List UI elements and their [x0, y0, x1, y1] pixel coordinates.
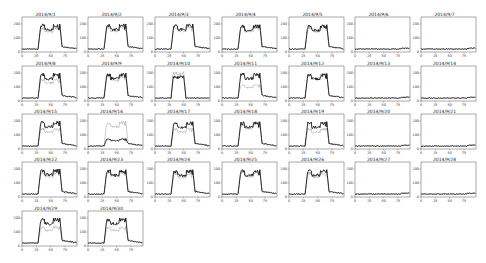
- actual-line: [22, 218, 76, 243]
- svg-text:0: 0: [221, 151, 223, 155]
- svg-text:0: 0: [154, 199, 156, 203]
- svg-text:0: 0: [417, 99, 419, 103]
- actual-line: [421, 48, 475, 50]
- svg-text:50: 50: [447, 199, 451, 203]
- svg-text:200: 200: [347, 22, 353, 26]
- svg-text:50: 50: [48, 54, 52, 58]
- svg-text:200: 200: [281, 71, 287, 75]
- svg-text:100: 100: [281, 133, 287, 137]
- predicted-line: [88, 226, 142, 243]
- svg-text:0: 0: [151, 50, 153, 54]
- svg-text:25: 25: [367, 151, 371, 155]
- svg-text:75: 75: [129, 54, 133, 58]
- predicted-line: [155, 26, 209, 49]
- svg-text:100: 100: [14, 36, 20, 40]
- svg-text:0: 0: [417, 50, 419, 54]
- svg-text:25: 25: [367, 103, 371, 107]
- actual-line: [289, 74, 343, 99]
- predicted-line: [22, 128, 76, 146]
- svg-text:75: 75: [330, 54, 334, 58]
- svg-text:50: 50: [248, 151, 252, 155]
- svg-text:75: 75: [462, 54, 466, 58]
- predicted-line: [222, 26, 276, 49]
- svg-text:25: 25: [34, 54, 38, 58]
- svg-text:50: 50: [248, 103, 252, 107]
- svg-text:75: 75: [396, 54, 400, 58]
- actual-line: [88, 24, 142, 49]
- svg-text:100: 100: [214, 181, 220, 185]
- actual-line: [289, 25, 343, 50]
- actual-line: [355, 48, 409, 50]
- actual-line: [289, 170, 343, 195]
- subplot-2014-9-19: 2014/9/1901002000255075: [281, 109, 345, 157]
- svg-text:25: 25: [100, 199, 104, 203]
- svg-text:0: 0: [154, 54, 156, 58]
- svg-text:75: 75: [330, 199, 334, 203]
- svg-text:200: 200: [214, 119, 220, 123]
- svg-text:200: 200: [14, 167, 20, 171]
- svg-text:50: 50: [114, 199, 118, 203]
- svg-text:0: 0: [151, 147, 153, 151]
- actual-line: [355, 145, 409, 147]
- svg-text:50: 50: [381, 199, 385, 203]
- svg-text:75: 75: [129, 151, 133, 155]
- svg-text:100: 100: [281, 85, 287, 89]
- svg-text:100: 100: [147, 181, 153, 185]
- svg-text:100: 100: [347, 36, 353, 40]
- svg-text:0: 0: [354, 151, 356, 155]
- subplot-2014-9-20: 2014/9/2001002000255075: [347, 109, 411, 157]
- svg-text:0: 0: [84, 50, 86, 54]
- subplot-2014-9-7: 2014/9/701002000255075: [413, 12, 477, 60]
- svg-text:50: 50: [315, 54, 319, 58]
- svg-text:0: 0: [288, 151, 290, 155]
- subplot-2014-9-22: 2014/9/2201002000255075: [14, 157, 78, 205]
- svg-text:25: 25: [433, 199, 437, 203]
- subplot-2014-9-28: 2014/9/2801002000255075: [413, 157, 477, 205]
- subplot-axes: 01002000255075: [80, 211, 147, 256]
- svg-text:0: 0: [84, 244, 86, 248]
- subplot-axes: 01002000255075: [80, 17, 147, 62]
- actual-line: [22, 121, 76, 146]
- svg-text:75: 75: [196, 103, 200, 107]
- svg-text:100: 100: [14, 181, 20, 185]
- svg-text:200: 200: [281, 22, 287, 26]
- subplot-axes: 01002000255075: [413, 162, 480, 207]
- svg-text:25: 25: [34, 151, 38, 155]
- svg-text:25: 25: [301, 199, 305, 203]
- svg-text:100: 100: [14, 85, 20, 89]
- svg-text:50: 50: [114, 54, 118, 58]
- actual-line: [222, 25, 276, 50]
- svg-text:0: 0: [151, 99, 153, 103]
- svg-text:25: 25: [234, 199, 238, 203]
- svg-text:200: 200: [14, 71, 20, 75]
- subplot-2014-9-21: 2014/9/2101002000255075: [413, 109, 477, 157]
- svg-text:0: 0: [21, 103, 23, 107]
- subplot-2014-9-6: 2014/9/601002000255075: [347, 12, 411, 60]
- subplot-axes: 01002000255075: [147, 114, 214, 159]
- svg-text:200: 200: [147, 119, 153, 123]
- subplot-axes: 01002000255075: [214, 17, 281, 62]
- svg-text:200: 200: [80, 167, 86, 171]
- svg-text:50: 50: [48, 248, 52, 252]
- subplot-axes: 01002000255075: [413, 114, 480, 159]
- actual-line: [222, 73, 276, 98]
- svg-text:0: 0: [21, 248, 23, 252]
- svg-text:50: 50: [381, 151, 385, 155]
- subplot-axes: 01002000255075: [14, 17, 81, 62]
- subplot-axes: 01002000255075: [281, 17, 348, 62]
- actual-line: [355, 97, 409, 99]
- subplot-axes: 01002000255075: [14, 114, 81, 159]
- subplot-2014-9-13: 2014/9/1301002000255075: [347, 61, 411, 109]
- svg-text:25: 25: [100, 54, 104, 58]
- svg-text:200: 200: [80, 119, 86, 123]
- subplot-axes: 01002000255075: [413, 66, 480, 111]
- svg-text:25: 25: [234, 151, 238, 155]
- subplot-axes: 01002000255075: [14, 211, 81, 256]
- subplot-axes: 01002000255075: [214, 66, 281, 111]
- svg-text:50: 50: [315, 103, 319, 107]
- svg-text:75: 75: [63, 151, 67, 155]
- svg-text:25: 25: [34, 248, 38, 252]
- svg-text:0: 0: [288, 103, 290, 107]
- svg-text:200: 200: [80, 216, 86, 220]
- svg-text:50: 50: [48, 199, 52, 203]
